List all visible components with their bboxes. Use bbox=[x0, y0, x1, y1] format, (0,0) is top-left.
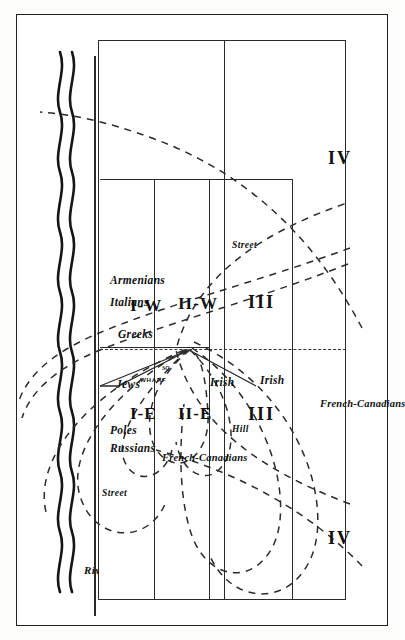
street-label-east: Street bbox=[232, 240, 257, 250]
zone-block-right-edge bbox=[100, 179, 293, 180]
riverside-street-line bbox=[94, 56, 96, 616]
zone-label-IV-E: IV bbox=[328, 528, 352, 549]
ethnic-label-french-canadians-zone-IV: French-Canadians bbox=[320, 398, 405, 409]
zone-label-I-E: I-E bbox=[130, 404, 157, 424]
map-stage: River Street Street bbox=[44, 40, 364, 600]
map-stage-wrapper: River Street Street bbox=[34, 30, 374, 610]
zone-label-IV-W: IV bbox=[328, 148, 352, 169]
ethnic-label-jews: Jews bbox=[116, 378, 140, 390]
zone-label-III-W: III bbox=[248, 292, 275, 313]
hill-label: Hill bbox=[232, 424, 249, 434]
zone-label-II-W: II-W bbox=[178, 294, 218, 314]
street-label-west: Street bbox=[102, 488, 127, 498]
hill-street-line bbox=[224, 40, 225, 600]
ethnic-label-russians: Russians bbox=[110, 442, 155, 454]
ethnic-label-french-canadians-zone-II: French-Canadians bbox=[162, 452, 247, 463]
center-axis-dashed bbox=[100, 349, 346, 350]
zone-boundary-II-III bbox=[209, 180, 210, 600]
ethnic-label-irish-zone-III: Irish bbox=[260, 374, 285, 386]
district-block bbox=[98, 40, 346, 600]
zone-boundary-III-IV bbox=[292, 180, 293, 600]
zone-boundary-I-II bbox=[154, 180, 155, 600]
zone-label-II-E: II-E bbox=[178, 404, 212, 424]
river-graphic bbox=[52, 40, 78, 600]
ethnic-label-greeks: Greeks bbox=[118, 328, 153, 340]
zone-label-III-E: III bbox=[248, 404, 275, 425]
ethnic-label-irish-boundary: Irish bbox=[210, 376, 235, 388]
